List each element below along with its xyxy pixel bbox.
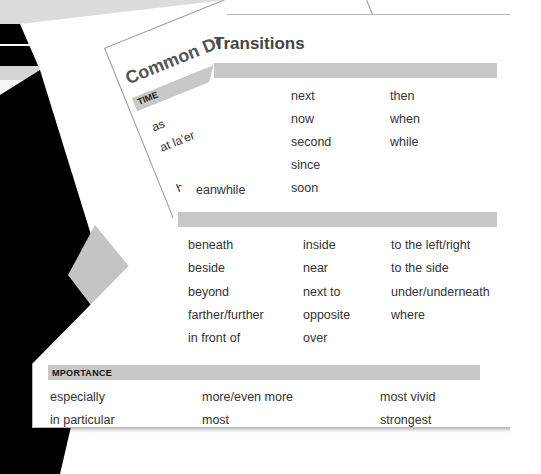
word: then: [390, 89, 414, 103]
word: while: [390, 135, 419, 149]
word: under/underneath: [391, 285, 490, 299]
word: to the side: [391, 261, 449, 275]
word: now: [291, 112, 314, 126]
word: inside: [303, 238, 336, 252]
word: when: [390, 112, 420, 126]
section-bar: [214, 63, 497, 78]
word: most: [202, 413, 229, 427]
word: as: [150, 116, 167, 134]
word: over: [303, 331, 327, 345]
section-bar: [48, 365, 480, 380]
word: most vivid: [380, 390, 436, 404]
word: next: [291, 89, 315, 103]
word: eanwhile: [196, 183, 245, 197]
word: near: [303, 261, 328, 275]
word: beneath: [188, 238, 233, 252]
word: second: [291, 135, 331, 149]
word: to the left/right: [391, 238, 470, 252]
word: in front of: [188, 331, 240, 345]
word: strongest: [380, 413, 431, 427]
word: where: [391, 308, 425, 322]
word: beside: [188, 261, 225, 275]
word: in particular: [50, 413, 115, 427]
word: more/even more: [202, 390, 293, 404]
word: at la’er: [158, 128, 197, 154]
word: opposite: [303, 308, 350, 322]
word: next to: [303, 285, 341, 299]
section-label-importance: MPORTANCE: [52, 368, 112, 378]
word: especially: [50, 390, 105, 404]
word: soon: [291, 181, 318, 195]
page-title: Transitions: [214, 34, 305, 54]
word: beyond: [188, 285, 229, 299]
section-bar: [178, 212, 497, 227]
word: farther/further: [188, 308, 264, 322]
word: since: [291, 158, 320, 172]
